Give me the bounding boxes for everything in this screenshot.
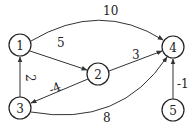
node-2: 2 (87, 63, 109, 85)
edge-1-to-4 (31, 20, 163, 41)
edge-label-5-4: -1 (177, 77, 189, 91)
edge-label-2-4: 3 (132, 48, 140, 62)
edge-label-2-3: -4 (47, 79, 63, 96)
node-3: 3 (9, 97, 31, 119)
node-label: 4 (169, 41, 177, 55)
node-label: 5 (169, 104, 177, 118)
node-1: 1 (9, 34, 31, 56)
node-label: 3 (16, 102, 24, 116)
node-5: 5 (162, 99, 184, 121)
graph-diagram: 10 5 3 -4 2 8 -1 1 2 3 4 5 (0, 0, 193, 128)
node-4: 4 (162, 36, 184, 58)
edge-label-1-2: 5 (57, 36, 65, 50)
edge-label-3-1: 2 (23, 74, 37, 82)
edge-label-1-4: 10 (103, 4, 118, 18)
edge-label-3-4: 8 (103, 111, 111, 125)
node-label: 2 (94, 68, 102, 82)
edge-1-to-2 (30, 51, 87, 70)
node-label: 1 (16, 39, 24, 53)
